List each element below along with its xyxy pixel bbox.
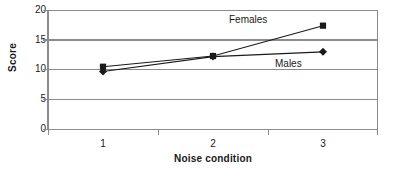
series-label-females: Females bbox=[229, 14, 267, 25]
data-point-males-3 bbox=[319, 48, 327, 56]
data-point-females-3 bbox=[320, 23, 326, 29]
series-label-males: Males bbox=[275, 58, 302, 69]
series-layer bbox=[0, 0, 394, 173]
line-chart: Score 20 15 10 5 0 1 2 3 Noise condition… bbox=[0, 0, 394, 173]
